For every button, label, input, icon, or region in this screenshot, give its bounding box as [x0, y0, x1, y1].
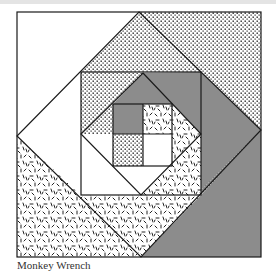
center-top-left — [113, 104, 143, 134]
caption: Monkey Wrench — [17, 259, 91, 271]
center-bottom-right — [143, 134, 172, 166]
monkey-wrench-quilt-block — [0, 0, 276, 258]
center-bottom-left — [113, 134, 143, 166]
center-top-right — [143, 104, 172, 134]
